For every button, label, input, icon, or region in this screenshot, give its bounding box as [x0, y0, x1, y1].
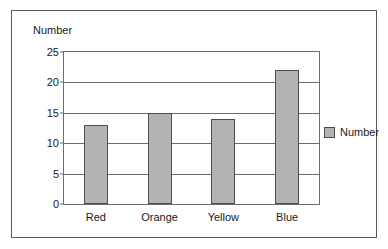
- y-axis-title: Number: [33, 24, 72, 36]
- x-tick-label: Yellow: [208, 211, 239, 223]
- x-tick-slot: Orange: [128, 52, 192, 204]
- y-tick-label: 20: [47, 76, 59, 88]
- y-tick-label: 5: [53, 168, 59, 180]
- chart-frame: Number 0510152025 RedOrangeYellowBlue Nu…: [11, 10, 377, 238]
- legend-swatch-number: [324, 127, 335, 138]
- plot-area: 0510152025 RedOrangeYellowBlue: [63, 51, 320, 205]
- legend-label-number: Number: [340, 126, 379, 138]
- y-tick-label: 25: [47, 46, 59, 58]
- y-tick-label: 15: [47, 107, 59, 119]
- x-tick-slot: Red: [64, 52, 128, 204]
- x-tick-label: Orange: [141, 211, 178, 223]
- x-tick-label: Blue: [276, 211, 298, 223]
- legend: Number: [324, 126, 379, 138]
- x-tick-label: Red: [86, 211, 106, 223]
- y-tick-label: 10: [47, 137, 59, 149]
- y-tick-label: 0: [53, 198, 59, 210]
- x-tick-slot: Yellow: [192, 52, 256, 204]
- x-tick-slot: Blue: [255, 52, 319, 204]
